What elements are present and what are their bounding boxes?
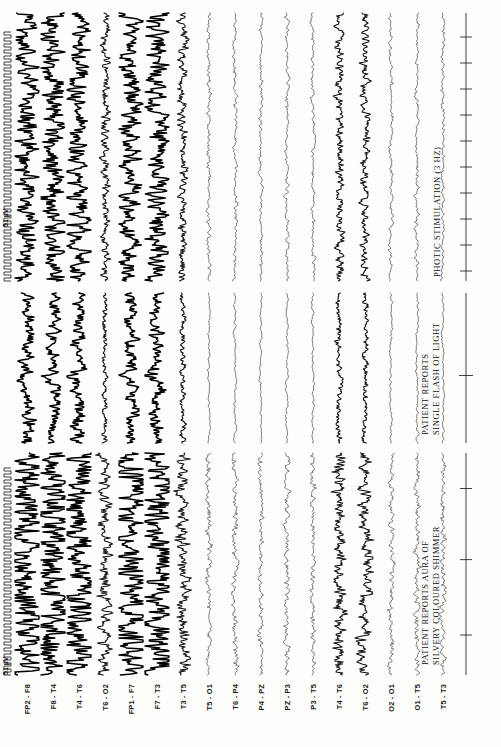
eeg-trace-t5-o1-p2 bbox=[196, 293, 222, 443]
channel-label-o1-t5: O1 - T5 bbox=[413, 681, 422, 745]
calibration-marker bbox=[3, 463, 12, 675]
channel-label-t6-p4: T6 - P4 bbox=[231, 681, 240, 745]
trace-svg bbox=[118, 453, 144, 675]
photic-stim-event-channel bbox=[458, 13, 474, 281]
eeg-trace-p3-t5-p1 bbox=[300, 453, 326, 675]
eeg-trace-t6-o2-p2 bbox=[92, 293, 118, 443]
eeg-trace-t6-p4-p3 bbox=[222, 13, 248, 281]
eeg-trace-fp2-f8-p2 bbox=[14, 293, 40, 443]
trace-svg bbox=[274, 293, 300, 443]
trace-svg bbox=[40, 453, 66, 675]
eeg-trace-t6-o2-p3 bbox=[92, 13, 118, 281]
trace-svg bbox=[274, 453, 300, 675]
trace-svg bbox=[14, 293, 40, 443]
trace-svg bbox=[222, 453, 248, 675]
eeg-trace-t5-o1-p1 bbox=[196, 453, 222, 675]
trace-svg bbox=[248, 453, 274, 675]
eeg-trace-t5-o1-p3 bbox=[196, 13, 222, 281]
trace-svg bbox=[196, 13, 222, 281]
trace-svg bbox=[66, 293, 92, 443]
eeg-trace-o2-o1-p1 bbox=[378, 453, 404, 675]
eeg-trace-fp1-f7-p2 bbox=[118, 293, 144, 443]
trace-svg bbox=[196, 293, 222, 443]
trace-svg bbox=[170, 453, 196, 675]
eeg-trace-fp1-f7-p1 bbox=[118, 453, 144, 675]
eeg-panel-3 bbox=[0, 13, 501, 281]
eeg-trace-t3-t5-p3 bbox=[170, 13, 196, 281]
eeg-trace-p4-pz-p2 bbox=[248, 293, 274, 443]
trace-svg bbox=[404, 13, 430, 281]
channel-label-t6-o2: T6 - O2 bbox=[361, 681, 370, 745]
eeg-trace-t6-p4-p1 bbox=[222, 453, 248, 675]
channel-label-fp1-f7: FP1 - F7 bbox=[127, 681, 136, 745]
eeg-trace-t4-t6-p2 bbox=[326, 293, 352, 443]
eeg-trace-fp1-f7-p3 bbox=[118, 13, 144, 281]
eeg-trace-fp2-f8-p3 bbox=[14, 13, 40, 281]
eeg-trace-t6-p4-p2 bbox=[222, 293, 248, 443]
eeg-trace-t4-t6-p2 bbox=[66, 293, 92, 443]
trace-svg bbox=[40, 13, 66, 281]
eeg-chart-area: FP2 - F8F8 - T4T4 - T6T6 - O2FP1 - F7F7 … bbox=[0, 0, 501, 747]
trace-svg bbox=[352, 453, 378, 675]
eeg-trace-t6-o2-p1 bbox=[352, 453, 378, 675]
trace-svg bbox=[92, 13, 118, 281]
channel-label-pz-p3: PZ - P3 bbox=[283, 681, 292, 745]
eeg-trace-f8-t4-p3 bbox=[40, 13, 66, 281]
eeg-trace-p4-pz-p1 bbox=[248, 453, 274, 675]
eeg-trace-fp2-f8-p1 bbox=[14, 453, 40, 675]
trace-svg bbox=[14, 13, 40, 281]
channel-label-o2-o1: O2 - O1 bbox=[387, 681, 396, 745]
eeg-trace-p3-t5-p2 bbox=[300, 293, 326, 443]
eeg-trace-pz-p3-p1 bbox=[274, 453, 300, 675]
trace-svg bbox=[326, 13, 352, 281]
trace-svg bbox=[352, 293, 378, 443]
annotation-photic: PHOTIC STIMULATION (3 HZ) bbox=[432, 147, 443, 277]
eeg-trace-p4-pz-p3 bbox=[248, 13, 274, 281]
trace-svg bbox=[144, 453, 170, 675]
channel-label-p4-pz: P4 - PZ bbox=[257, 681, 266, 745]
eeg-trace-f7-t3-p2 bbox=[144, 293, 170, 443]
eeg-trace-p3-t5-p3 bbox=[300, 13, 326, 281]
channel-label-gutter: FP2 - F8F8 - T4T4 - T6T6 - O2FP1 - F7F7 … bbox=[0, 679, 501, 747]
trace-svg bbox=[144, 13, 170, 281]
trace-svg bbox=[92, 293, 118, 443]
trace-svg bbox=[170, 293, 196, 443]
eeg-trace-t4-t6-p1 bbox=[326, 453, 352, 675]
annotation-flash-line2: SINGLE FLASH OF LIGHT bbox=[431, 322, 442, 435]
trace-svg bbox=[92, 453, 118, 675]
aura-event-channel bbox=[458, 453, 474, 675]
trace-svg bbox=[40, 293, 66, 443]
trace-svg bbox=[300, 453, 326, 675]
channel-label-p3-t5: P3 - T5 bbox=[309, 681, 318, 745]
annotation-photic-line1: PHOTIC STIMULATION (3 HZ) bbox=[432, 147, 442, 277]
trace-svg bbox=[222, 13, 248, 281]
channel-label-f8-t4: F8 - T4 bbox=[49, 681, 58, 745]
channel-label-t3-t5: T3 - T5 bbox=[179, 681, 188, 745]
eeg-trace-t3-t5-p2 bbox=[170, 293, 196, 443]
calibration-marker bbox=[3, 29, 12, 281]
eeg-trace-t6-o2-p1 bbox=[92, 453, 118, 675]
eeg-trace-f8-t4-p1 bbox=[40, 453, 66, 675]
eeg-trace-t4-t6-p1 bbox=[66, 453, 92, 675]
trace-svg bbox=[300, 13, 326, 281]
trace-svg bbox=[144, 293, 170, 443]
channel-label-t4-t6: T4 - T6 bbox=[335, 681, 344, 745]
trace-svg bbox=[326, 293, 352, 443]
trace-svg bbox=[222, 293, 248, 443]
trace-svg bbox=[196, 453, 222, 675]
channel-label-t4-t6: T4 - T6 bbox=[75, 681, 84, 745]
channel-label-t5-o1: T5 - O1 bbox=[205, 681, 214, 745]
trace-svg bbox=[66, 453, 92, 675]
trace-svg bbox=[378, 13, 404, 281]
eeg-page: FP2 - F8F8 - T4T4 - T6T6 - O2FP1 - F7F7 … bbox=[0, 0, 501, 747]
eeg-trace-t4-t6-p3 bbox=[326, 13, 352, 281]
trace-svg bbox=[66, 13, 92, 281]
eeg-trace-pz-p3-p2 bbox=[274, 293, 300, 443]
eeg-chart-rotated: FP2 - F8F8 - T4T4 - T6T6 - O2FP1 - F7F7 … bbox=[0, 0, 501, 747]
annotation-aura-line2: SILVERY COLOURED SHIMMER bbox=[431, 526, 442, 665]
eeg-trace-t4-t6-p3 bbox=[66, 13, 92, 281]
trace-svg bbox=[118, 293, 144, 443]
trace-svg bbox=[14, 453, 40, 675]
eeg-trace-o2-o1-p2 bbox=[378, 293, 404, 443]
channel-label-t6-o2: T6 - O2 bbox=[101, 681, 110, 745]
